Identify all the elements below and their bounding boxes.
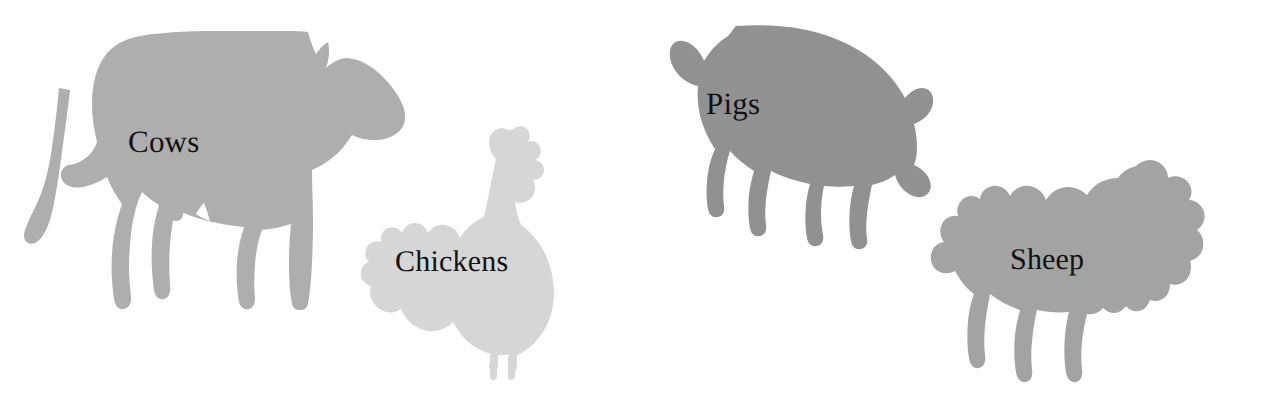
chicken-silhouette-icon <box>360 124 575 372</box>
silhouette-canvas: Cows Chickens Pigs Sheep <box>0 0 1264 406</box>
animal-figure-pig[interactable] <box>596 22 936 250</box>
cow-silhouette-icon <box>10 18 410 318</box>
sheep-silhouette-icon <box>930 158 1235 388</box>
animal-figure-cow[interactable] <box>10 18 410 318</box>
animal-figure-sheep[interactable] <box>930 158 1235 388</box>
animal-figure-chicken[interactable] <box>360 124 575 372</box>
pig-silhouette-icon <box>596 22 936 250</box>
